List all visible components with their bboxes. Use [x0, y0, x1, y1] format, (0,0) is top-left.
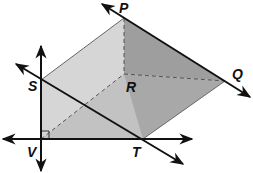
label-Q: Q	[232, 66, 243, 82]
label-P: P	[119, 0, 129, 16]
label-S: S	[28, 78, 38, 94]
label-V: V	[27, 144, 38, 160]
label-R: R	[126, 79, 137, 95]
prism-diagram: P Q R S T V	[0, 0, 253, 173]
label-T: T	[132, 144, 142, 160]
